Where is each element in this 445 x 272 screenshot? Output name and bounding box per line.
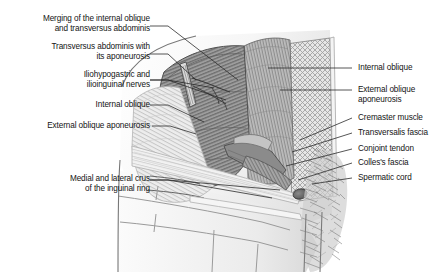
label-merging-internal-oblique-transversus: Merging of the internal oblique and tran… [10,14,150,34]
label-cremaster-muscle: Cremaster muscle [358,113,444,123]
label-transversus-abdominis-aponeurosis: Transversus abdominis with its aponeuros… [10,42,150,62]
label-conjoint-tendon: Conjoint tendon [358,144,444,154]
label-external-oblique-aponeurosis-left: External oblique aponeurosis [4,121,150,131]
label-colles-fascia: Colles's fascia [358,158,444,168]
label-internal-oblique-left: Internal oblique [10,100,150,110]
spermatic-cord [300,144,347,272]
label-iliohypogastric-ilioinguinal-nerves: Iliohypogastric and ilioinguinal nerves [10,70,150,90]
label-spermatic-cord: Spermatic cord [358,173,444,183]
label-external-oblique-aponeurosis-right: External oblique aponeurosis [358,85,444,105]
label-transversalis-fascia: Transversalis fascia [358,128,444,138]
label-internal-oblique-right: Internal oblique [358,63,444,73]
label-medial-lateral-crus-inguinal-ring: Medial and lateral crus of the inguinal … [10,174,150,194]
